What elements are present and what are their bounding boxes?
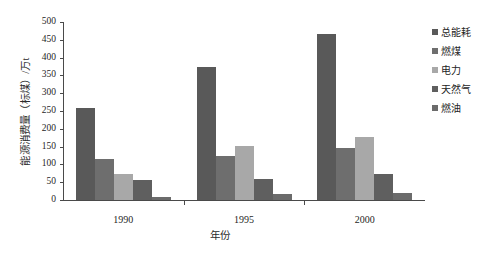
legend-swatch-icon — [432, 105, 438, 111]
legend-item[interactable]: 燃煤 — [432, 41, 502, 60]
bar — [254, 179, 273, 200]
energy-consumption-bar-chart: 能源消费量（标煤）/万t 年份 050100150200250300350400… — [0, 0, 502, 256]
legend-item-label: 电力 — [441, 62, 461, 77]
bar — [114, 174, 133, 200]
legend-item-label: 燃油 — [441, 100, 461, 115]
legend-item[interactable]: 总能耗 — [432, 22, 502, 41]
bar — [336, 148, 355, 200]
y-axis-tick-label: 100 — [22, 159, 56, 169]
y-axis-tick-label: 300 — [22, 88, 56, 98]
y-axis-tick-label: 150 — [22, 142, 56, 152]
y-axis-tick-label: 400 — [22, 53, 56, 63]
chart-legend: 总能耗燃煤电力天然气燃油 — [432, 22, 502, 117]
bar — [374, 174, 393, 200]
plot-area: 050100150200250300350400450500 199019952… — [63, 22, 425, 200]
legend-swatch-icon — [432, 86, 438, 92]
x-axis-tick-mark — [184, 200, 185, 205]
legend-swatch-icon — [432, 29, 438, 35]
bar — [76, 108, 95, 200]
x-axis-line — [63, 200, 425, 201]
bar — [133, 180, 152, 200]
bar — [273, 194, 292, 200]
y-axis-tick-label: 250 — [22, 106, 56, 116]
x-axis-title: 年份 — [0, 227, 440, 242]
legend-item-label: 燃煤 — [441, 43, 461, 58]
legend-item[interactable]: 电力 — [432, 60, 502, 79]
bar — [317, 34, 336, 200]
legend-swatch-icon — [432, 67, 438, 73]
legend-swatch-icon — [432, 48, 438, 54]
x-axis-tick-mark — [304, 200, 305, 205]
y-axis-tick-label: 450 — [22, 35, 56, 45]
bar — [216, 156, 235, 200]
legend-item-label: 总能耗 — [441, 24, 472, 39]
bar — [393, 193, 412, 200]
y-axis-tick-label: 50 — [22, 177, 56, 187]
bars-layer — [63, 22, 425, 200]
bar — [95, 159, 114, 200]
y-axis-tick-label: 0 — [22, 195, 56, 205]
bar — [152, 197, 171, 200]
bar — [197, 67, 216, 200]
bar — [235, 146, 254, 200]
x-axis-tick-label: 1995 — [209, 214, 279, 225]
legend-item[interactable]: 天然气 — [432, 79, 502, 98]
x-axis-tick-label: 2000 — [330, 214, 400, 225]
y-axis-tick-label: 200 — [22, 124, 56, 134]
y-axis-tick-label: 500 — [22, 17, 56, 27]
legend-item[interactable]: 燃油 — [432, 98, 502, 117]
y-axis-tick-mark — [60, 200, 64, 201]
x-axis-tick-label: 1990 — [88, 214, 158, 225]
legend-item-label: 天然气 — [441, 81, 472, 96]
bar — [355, 137, 374, 200]
y-axis-tick-label: 350 — [22, 70, 56, 80]
